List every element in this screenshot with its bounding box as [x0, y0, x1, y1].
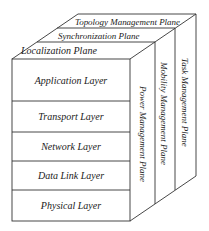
- plane-label-localization: Localization Plane: [20, 45, 97, 56]
- plane-label-mobility: Mobility Management Plane: [159, 61, 169, 165]
- plane-label-topology: Topology Management Plane: [75, 17, 180, 27]
- layer-label-application: Application Layer: [34, 75, 108, 86]
- plane-label-power: Power Management Plane: [138, 85, 148, 182]
- layer-label-network: Network Layer: [40, 141, 101, 152]
- layer-label-physical: Physical Layer: [40, 200, 101, 211]
- layer-label-transport: Transport Layer: [38, 111, 103, 122]
- layer-label-data-link: Data Link Layer: [37, 170, 104, 181]
- protocol-stack-cube: Application Layer Transport Layer Networ…: [0, 0, 209, 231]
- plane-label-synchronization: Synchronization Plane: [58, 31, 139, 41]
- plane-label-task: Task Management Plane: [180, 58, 190, 147]
